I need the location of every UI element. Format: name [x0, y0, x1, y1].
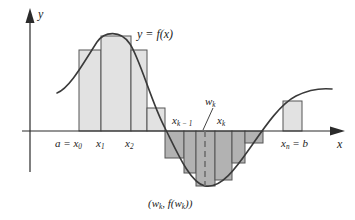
bar-below [196, 131, 215, 186]
label-xk: xk [217, 115, 225, 128]
label-a-equals-x0-sub: 0 [78, 143, 82, 151]
label-xk-minus-1: xk − 1 [172, 115, 192, 128]
label-a-equals-x0-text: a = x [55, 137, 78, 149]
bar-above [283, 101, 302, 131]
point-close: )) [185, 197, 192, 209]
x-axis-label: x [337, 138, 342, 150]
bars-right-end [283, 101, 302, 131]
label-a-equals-x0: a = x0 [55, 138, 82, 151]
label-wk: wk [205, 96, 216, 109]
label-x2: x2 [125, 138, 134, 151]
label-xn-equals-b: xn = b [281, 138, 308, 151]
label-x1-sub: 1 [101, 143, 105, 151]
wk-leader-line [203, 108, 213, 130]
y-axis [26, 8, 35, 172]
label-xk-minus-1-sub: k − 1 [177, 120, 192, 128]
curve-label: y = f(x) [137, 28, 173, 40]
label-x2-sub: 2 [130, 143, 134, 151]
bar-above [79, 50, 101, 131]
bar-above [101, 36, 131, 131]
point-mid: , f(w [162, 197, 182, 209]
bar-above [147, 108, 165, 131]
riemann-sum-figure: y x y = f(x) a = x0 x1 x2 xk − 1 xk wk x… [0, 0, 355, 220]
point-open: (w [148, 197, 159, 209]
label-point-wk-fwk: (wk, f(wk)) [148, 198, 192, 211]
label-x1: x1 [96, 138, 105, 151]
figure-canvas [0, 0, 355, 220]
y-axis-label: y [38, 8, 43, 20]
bar-below [215, 131, 232, 180]
label-equals-b: = b [290, 137, 308, 149]
label-xk-sub: k [222, 120, 225, 128]
label-wk-sub: k [212, 101, 215, 109]
